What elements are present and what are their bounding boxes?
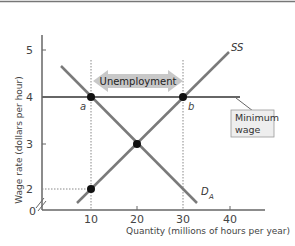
- unemployment-arrow: Unemployment: [93, 70, 183, 92]
- point-a: [87, 93, 95, 101]
- unemployment-label: Unemployment: [100, 76, 177, 87]
- svg-text:wage: wage: [235, 124, 261, 135]
- x-tick-30: 30: [176, 213, 190, 226]
- supply-curve-label: SS: [231, 42, 244, 53]
- x-axis-title: Quantity (millions of hours per year): [126, 226, 290, 236]
- x-tick-10: 10: [84, 213, 98, 226]
- y-tick-4: 4: [26, 91, 33, 104]
- point-a-label: a: [80, 101, 86, 112]
- chart-canvas: 5 4 3 2 0 10 20 30 40 Wage rate (dollars…: [0, 0, 295, 246]
- y-tick-5: 5: [26, 44, 33, 57]
- point-low: [87, 185, 95, 193]
- x-axis: [42, 206, 265, 210]
- svg-text:A: A: [208, 193, 214, 201]
- point-b: [179, 93, 187, 101]
- y-tick-3: 3: [26, 138, 33, 151]
- y-tick-0: 0: [29, 205, 36, 218]
- svg-text:D: D: [201, 186, 209, 197]
- callout-leader: [236, 98, 253, 111]
- equilibrium-point: [133, 140, 141, 148]
- x-tick-20: 20: [130, 213, 144, 226]
- point-b-label: b: [188, 101, 194, 112]
- minimum-wage-callout: Minimum wage: [231, 110, 279, 137]
- x-tick-40: 40: [223, 213, 237, 226]
- y-axis-title: Wage rate (dollars per hour): [14, 76, 24, 204]
- y-axis: [36, 35, 46, 211]
- svg-text:Minimum: Minimum: [235, 112, 279, 123]
- y-tick-2: 2: [26, 183, 33, 196]
- demand-curve-label: D A: [201, 186, 214, 201]
